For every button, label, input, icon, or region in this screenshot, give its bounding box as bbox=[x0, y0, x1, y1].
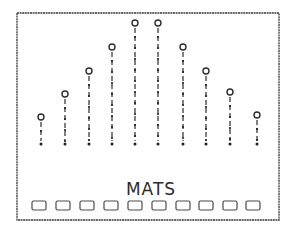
stem-dot bbox=[134, 36, 136, 38]
stem-dot bbox=[157, 36, 159, 38]
stem-4 bbox=[109, 44, 115, 146]
stem-dot bbox=[182, 93, 184, 95]
stem-dot bbox=[182, 60, 184, 62]
stem-base-dot bbox=[182, 143, 185, 146]
stem-base-dot bbox=[229, 143, 232, 146]
mat-6 bbox=[152, 201, 166, 210]
mat-9 bbox=[223, 201, 237, 210]
stem-base-dot bbox=[134, 143, 137, 146]
stem-9 bbox=[227, 89, 233, 146]
mat-1 bbox=[32, 201, 46, 210]
stem-dot bbox=[205, 117, 207, 119]
stem-dot bbox=[111, 82, 113, 84]
stem-dot bbox=[134, 124, 136, 126]
stem-dot bbox=[111, 137, 113, 139]
stem-base-dot bbox=[157, 143, 160, 146]
stem-dot bbox=[157, 102, 159, 104]
stem-dot bbox=[134, 135, 136, 137]
stem-dot bbox=[182, 137, 184, 139]
mats-label: MATS bbox=[126, 179, 176, 199]
ring-icon bbox=[203, 68, 209, 74]
stem-dot bbox=[64, 118, 66, 120]
mat-10 bbox=[246, 201, 260, 210]
stem-base-dot bbox=[88, 143, 91, 146]
stem-dot bbox=[256, 139, 258, 141]
mat-8 bbox=[199, 201, 213, 210]
ring-icon bbox=[62, 91, 68, 97]
stem-dot bbox=[134, 58, 136, 60]
mat-7 bbox=[176, 201, 190, 210]
stem-5 bbox=[132, 20, 138, 146]
stem-dot bbox=[182, 126, 184, 128]
ring-icon bbox=[180, 44, 186, 50]
stem-dot bbox=[182, 82, 184, 84]
ring-icon bbox=[132, 20, 138, 26]
mats-diagram: MATS bbox=[0, 0, 288, 236]
stem-dot bbox=[182, 104, 184, 106]
stem-dot bbox=[40, 130, 42, 132]
stem-dot bbox=[134, 69, 136, 71]
stem-dot bbox=[64, 129, 66, 131]
stem-dot bbox=[157, 124, 159, 126]
ring-icon bbox=[254, 112, 260, 118]
stem-dot bbox=[157, 47, 159, 49]
stem-dot bbox=[157, 135, 159, 137]
stem-dot bbox=[205, 106, 207, 108]
stem-dot bbox=[182, 115, 184, 117]
ring-icon bbox=[109, 44, 115, 50]
ring-icon bbox=[86, 68, 92, 74]
stem-dot bbox=[111, 71, 113, 73]
stem-dot bbox=[64, 140, 66, 142]
stem-dot bbox=[134, 91, 136, 93]
stem-base-dot bbox=[40, 143, 43, 146]
mat-2 bbox=[56, 201, 70, 210]
stem-3 bbox=[86, 68, 92, 146]
stem-base-dot bbox=[111, 143, 114, 146]
stems-group bbox=[38, 20, 260, 146]
mat-5 bbox=[128, 201, 142, 210]
stem-dot bbox=[134, 102, 136, 104]
stem-dot bbox=[205, 128, 207, 130]
stem-dot bbox=[134, 47, 136, 49]
stem-10 bbox=[254, 112, 260, 146]
stem-dot bbox=[111, 60, 113, 62]
stem-base-dot bbox=[205, 143, 208, 146]
stem-dot bbox=[88, 106, 90, 108]
stem-dot bbox=[157, 58, 159, 60]
stem-dot bbox=[64, 107, 66, 109]
stem-dot bbox=[111, 126, 113, 128]
stem-dot bbox=[157, 113, 159, 115]
ring-icon bbox=[227, 89, 233, 95]
stem-dot bbox=[229, 138, 231, 140]
stem-dot bbox=[157, 91, 159, 93]
stem-dot bbox=[88, 128, 90, 130]
stem-1 bbox=[38, 114, 44, 146]
stem-8 bbox=[203, 68, 209, 146]
stem-dot bbox=[256, 128, 258, 130]
stem-dot bbox=[205, 139, 207, 141]
stem-dot bbox=[88, 95, 90, 97]
stem-dot bbox=[111, 115, 113, 117]
stem-7 bbox=[180, 44, 186, 146]
ring-icon bbox=[38, 114, 44, 120]
stem-2 bbox=[62, 91, 68, 146]
stem-dot bbox=[229, 127, 231, 129]
stem-dot bbox=[182, 71, 184, 73]
stem-base-dot bbox=[64, 143, 67, 146]
stem-dot bbox=[134, 113, 136, 115]
mat-3 bbox=[80, 201, 94, 210]
stem-base-dot bbox=[256, 143, 259, 146]
stem-dot bbox=[205, 95, 207, 97]
stem-dot bbox=[88, 139, 90, 141]
mats-row bbox=[32, 201, 260, 210]
ring-icon bbox=[155, 20, 161, 26]
stem-dot bbox=[229, 105, 231, 107]
stem-dot bbox=[88, 84, 90, 86]
stem-dot bbox=[157, 69, 159, 71]
stem-dot bbox=[134, 80, 136, 82]
mat-4 bbox=[104, 201, 118, 210]
stem-dot bbox=[88, 117, 90, 119]
stem-dot bbox=[111, 104, 113, 106]
stem-6 bbox=[155, 20, 161, 146]
stem-dot bbox=[157, 80, 159, 82]
